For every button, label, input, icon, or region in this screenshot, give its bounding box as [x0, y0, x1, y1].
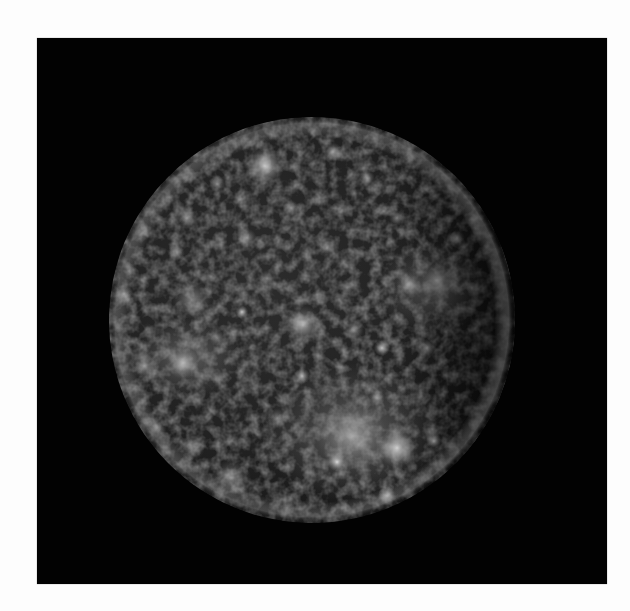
moon-disk	[37, 38, 607, 584]
moon-photograph	[37, 38, 607, 584]
space-background-frame	[37, 38, 607, 584]
photo-page	[0, 0, 630, 611]
